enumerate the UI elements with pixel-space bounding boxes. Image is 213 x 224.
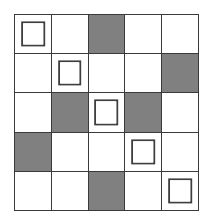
square-marker-inner xyxy=(60,63,80,84)
square-marker-icon xyxy=(168,178,192,203)
grid-cell-r5-c2[interactable] xyxy=(52,172,88,210)
square-marker-inner xyxy=(97,102,117,123)
pattern-grid xyxy=(14,14,199,211)
grid-cell-r5-c5[interactable] xyxy=(162,172,198,210)
grid-cell-r1-c5[interactable] xyxy=(162,15,198,53)
square-marker-icon xyxy=(95,100,119,125)
grid-cell-r4-c4[interactable] xyxy=(125,133,161,171)
square-marker-inner xyxy=(133,141,153,162)
square-marker-icon xyxy=(58,61,82,86)
grid-cell-r3-c3[interactable] xyxy=(89,93,125,131)
grid-cell-r5-c3[interactable] xyxy=(89,172,125,210)
grid-cell-r3-c1[interactable] xyxy=(15,93,51,131)
grid-cell-r1-c1[interactable] xyxy=(15,15,51,53)
grid-cell-r1-c3[interactable] xyxy=(89,15,125,53)
grid-cell-r3-c2[interactable] xyxy=(52,93,88,131)
square-marker-icon xyxy=(21,21,45,46)
grid-cell-r4-c1[interactable] xyxy=(15,133,51,171)
grid-cell-r2-c4[interactable] xyxy=(125,54,161,92)
grid-cell-r1-c4[interactable] xyxy=(125,15,161,53)
grid-cell-r4-c5[interactable] xyxy=(162,133,198,171)
square-marker-inner xyxy=(23,23,43,44)
grid-cell-r2-c1[interactable] xyxy=(15,54,51,92)
grid-cell-r3-c4[interactable] xyxy=(125,93,161,131)
square-marker-icon xyxy=(131,139,155,164)
grid-cell-r2-c2[interactable] xyxy=(52,54,88,92)
puzzle-figure xyxy=(0,0,213,224)
grid-cell-r4-c2[interactable] xyxy=(52,133,88,171)
square-marker-inner xyxy=(170,180,190,201)
grid-cell-r5-c4[interactable] xyxy=(125,172,161,210)
grid-cell-r2-c5[interactable] xyxy=(162,54,198,92)
grid-cell-r4-c3[interactable] xyxy=(89,133,125,171)
grid-cell-r5-c1[interactable] xyxy=(15,172,51,210)
grid-cell-r3-c5[interactable] xyxy=(162,93,198,131)
grid-cell-r2-c3[interactable] xyxy=(89,54,125,92)
grid-cell-r1-c2[interactable] xyxy=(52,15,88,53)
